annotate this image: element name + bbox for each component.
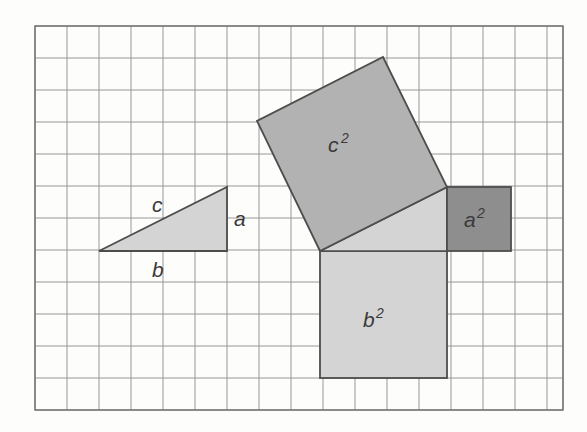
label-a-squared-base: a: [464, 208, 476, 231]
label-b-squared-base: b: [363, 308, 375, 331]
label-b-squared-exponent: 2: [375, 305, 384, 321]
label-c-squared-base: c: [328, 133, 339, 156]
label-hypotenuse-c: c: [152, 193, 163, 216]
label-leg-a: a: [234, 207, 246, 230]
label-c-squared-exponent: 2: [340, 130, 349, 146]
pythagorean-diagram: c a b c 2 a 2 b 2: [0, 0, 587, 432]
figure-canvas: c a b c 2 a 2 b 2: [0, 0, 587, 432]
label-a-squared-exponent: 2: [476, 205, 485, 221]
label-leg-b: b: [152, 258, 164, 281]
